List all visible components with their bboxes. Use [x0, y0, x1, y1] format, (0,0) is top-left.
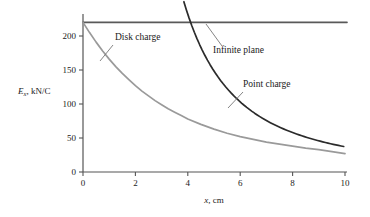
y-tick-label: 150 [63, 65, 77, 75]
x-tick-label: 0 [81, 178, 86, 188]
x-axis-label: x, cm [203, 195, 224, 205]
series-point-charge [184, 2, 344, 147]
annotation-infinite-plane: Infinite plane [213, 45, 264, 55]
y-tick-label: 50 [67, 133, 77, 143]
x-tick-label: 2 [133, 178, 138, 188]
annotation-disk-charge: Disk charge [115, 32, 160, 42]
series-disk-charge [83, 22, 345, 153]
y-tick-label: 0 [72, 167, 77, 177]
y-tick-label: 200 [63, 31, 77, 41]
x-tick-label: 4 [186, 178, 191, 188]
x-tick-label: 8 [290, 178, 295, 188]
y-tick-label: 100 [63, 99, 77, 109]
leader-line-disk-charge [100, 45, 113, 61]
y-axis-label: Ex, kN/C [17, 86, 50, 97]
x-tick-label: 6 [238, 178, 243, 188]
x-tick-label: 10 [341, 178, 351, 188]
leader-line-point-charge [228, 92, 243, 108]
electric-field-chart: 0501001502000246810x, cmEx, kN/CDisk cha… [0, 0, 370, 217]
annotation-point-charge: Point charge [243, 79, 291, 89]
chart-figure: 0501001502000246810x, cmEx, kN/CDisk cha… [0, 0, 370, 217]
leader-line-infinite-plane [206, 24, 222, 46]
